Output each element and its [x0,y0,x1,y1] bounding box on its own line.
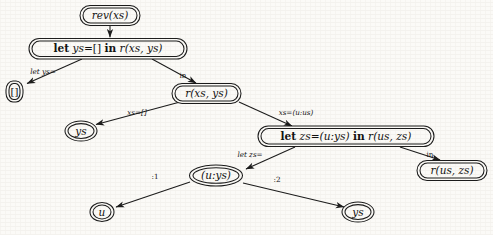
node-nil[interactable]: [] [6,81,23,102]
edge-label-let-zs: let zs= [237,150,262,159]
node-label-u: u [99,206,106,218]
node-r-xs-ys[interactable]: r(xs, ys) [172,84,241,104]
node-u[interactable]: u [90,203,114,222]
node-label-ys-right: ys [351,206,364,218]
node-label-nil: [] [11,86,19,97]
node-ys-left[interactable]: ys [65,121,97,141]
node-label-rev: rev(xs) [92,9,129,21]
edge-letys-to-rxsys [152,59,196,83]
edge-label-in-top: in [180,71,187,80]
node-ys-right[interactable]: ys [342,202,374,222]
edge-letzs-to-rusz [400,147,440,160]
edge-cons-to-u [116,182,190,207]
edge-label-selector-1: :1 [152,172,159,181]
node-label-r-us-zs: r(us, zs) [431,164,474,176]
node-label-r-xs-ys: r(xs, ys) [185,87,228,99]
edge-label-let-ys: let ys= [30,67,56,76]
edge-label-in-bottom: in [427,150,434,159]
node-label-let-ys: let ys=[] in r(xs, ys) [53,42,162,54]
edge-label-xs-cons: xs=(u:us) [279,108,314,117]
evaluation-graph: let ys= in xs=[] xs=(u:us) let zs= in :1… [0,0,493,235]
diagram-canvas: let ys= in xs=[] xs=(u:us) let zs= in :1… [0,0,493,235]
node-label-let-zs: let zs=(u:ys) in r(us, zs) [281,130,412,142]
edge-label-xs-nil: xs=[] [127,108,147,117]
node-cons[interactable]: (u:ys) [190,165,243,186]
edge-cons-to-ys [243,183,344,207]
edge-label-selector-2: :2 [274,175,281,184]
node-r-us-zs[interactable]: r(us, zs) [417,161,487,181]
node-let-zs[interactable]: let zs=(u:ys) in r(us, zs) [258,126,434,147]
node-label-ys-left: ys [74,125,87,137]
node-label-cons: (u:ys) [201,169,231,181]
node-rev[interactable]: rev(xs) [80,6,140,26]
node-let-ys[interactable]: let ys=[] in r(xs, ys) [29,39,187,60]
